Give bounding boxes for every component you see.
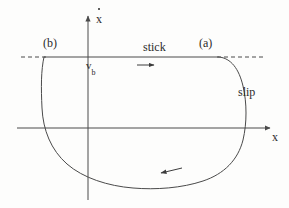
phase-portrait-figure: x x vb stick slip (a) (b) <box>0 0 289 208</box>
belt-velocity-subscript: b <box>92 68 96 77</box>
point-b-label: (b) <box>43 37 57 49</box>
y-axis-label-text: x <box>96 12 102 26</box>
phase-portrait-canvas <box>0 0 289 208</box>
slip-label: slip <box>238 86 255 98</box>
y-axis-label: x <box>96 13 102 25</box>
belt-velocity-label: vb <box>86 60 96 74</box>
overdot-icon <box>98 8 100 10</box>
limit-cycle-orbit <box>41 57 246 189</box>
stick-label: stick <box>143 41 166 53</box>
flow-arrow-lower <box>161 168 182 173</box>
x-axis-label: x <box>272 131 278 143</box>
belt-velocity-symbol: v <box>86 59 92 71</box>
point-a-label: (a) <box>199 37 212 49</box>
